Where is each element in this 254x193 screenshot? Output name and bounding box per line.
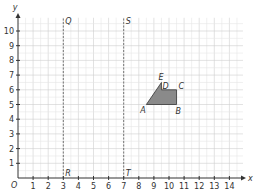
y-tick-label: 1 bbox=[9, 159, 14, 168]
x-tick-label: 2 bbox=[46, 182, 51, 191]
y-tick-label: 3 bbox=[9, 130, 14, 139]
x-tick-label: 4 bbox=[76, 182, 81, 191]
polygon-ABCDE bbox=[146, 82, 176, 104]
x-tick-label: 14 bbox=[224, 182, 234, 191]
y-tick-label: 9 bbox=[9, 42, 14, 51]
y-axis-arrow-icon bbox=[16, 13, 21, 18]
y-tick-label: 5 bbox=[9, 101, 14, 110]
y-tick-label: 7 bbox=[9, 71, 14, 80]
x-tick-label: 3 bbox=[61, 182, 66, 191]
y-tick-label: 4 bbox=[9, 115, 14, 124]
x-tick-label: 12 bbox=[194, 182, 204, 191]
x-tick-label: 11 bbox=[179, 182, 189, 191]
x-tick-label: 5 bbox=[91, 182, 96, 191]
origin-label: O bbox=[11, 181, 17, 190]
vertex-label: D bbox=[162, 82, 168, 91]
x-tick-label: 1 bbox=[31, 182, 36, 191]
x-tick-label: 13 bbox=[209, 182, 219, 191]
line-label-top: Q bbox=[65, 17, 71, 26]
x-axis-arrow-icon bbox=[241, 176, 246, 181]
vertex-label: B bbox=[176, 107, 182, 116]
y-tick-label: 10 bbox=[4, 27, 14, 36]
grid-lines bbox=[18, 18, 243, 178]
x-tick-label: 6 bbox=[106, 182, 111, 191]
x-tick-label: 9 bbox=[151, 182, 156, 191]
y-tick-label: 6 bbox=[9, 86, 14, 95]
line-label-bottom: R bbox=[65, 169, 71, 178]
x-axis-label: x bbox=[247, 174, 253, 183]
x-tick-label: 10 bbox=[164, 182, 174, 191]
vertex-label: A bbox=[139, 106, 145, 115]
shaded-polygon bbox=[146, 82, 176, 104]
x-tick-label: 7 bbox=[121, 182, 126, 191]
y-tick-label: 2 bbox=[9, 145, 14, 154]
y-tick-label: 8 bbox=[9, 56, 14, 65]
x-tick-label: 8 bbox=[136, 182, 141, 191]
y-axis-label: y bbox=[12, 3, 18, 12]
vertex-label: C bbox=[179, 82, 185, 91]
line-label-top: S bbox=[126, 17, 131, 26]
coordinate-grid: QRST123456789101112131412345678910OxyAED… bbox=[0, 0, 254, 193]
